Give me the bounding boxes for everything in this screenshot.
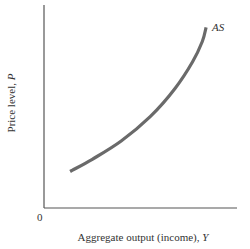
x-axis-label: Aggregate output (income), Y xyxy=(78,231,211,244)
x-axis-variable: Y xyxy=(202,231,210,243)
origin-label: 0 xyxy=(37,211,43,223)
as-curve xyxy=(70,27,206,171)
x-axis-label-text: Aggregate output (income), xyxy=(78,231,203,244)
as-curve-label: AS xyxy=(211,21,225,33)
aggregate-supply-chart: AS 0 Aggregate output (income), Y Price … xyxy=(0,0,250,249)
y-axis-variable: P xyxy=(5,73,17,81)
y-axis-label-text: Price level, xyxy=(5,80,17,132)
y-axis-label: Price level, P xyxy=(5,73,17,132)
